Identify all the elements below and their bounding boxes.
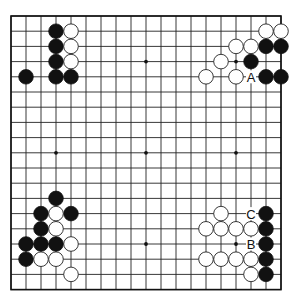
white-stone xyxy=(229,70,244,85)
point-label-b: B xyxy=(247,237,256,252)
white-stone xyxy=(214,252,229,267)
white-stone xyxy=(199,222,214,237)
black-stone xyxy=(34,237,49,252)
black-stone xyxy=(259,237,274,252)
black-stone xyxy=(19,70,34,85)
white-stone xyxy=(259,24,274,39)
white-stone xyxy=(64,54,79,69)
white-stone xyxy=(214,222,229,237)
white-stone xyxy=(64,24,79,39)
black-stone xyxy=(49,191,64,206)
white-stone xyxy=(229,222,244,237)
star-point xyxy=(234,60,238,64)
black-stone xyxy=(34,206,49,221)
black-stone xyxy=(64,70,79,85)
white-stone xyxy=(244,39,259,54)
white-stone xyxy=(64,237,79,252)
white-stone xyxy=(49,222,64,237)
star-point xyxy=(144,60,148,64)
black-stone xyxy=(244,54,259,69)
star-point xyxy=(144,151,148,155)
star-point xyxy=(54,151,58,155)
white-stone xyxy=(49,206,64,221)
black-stone xyxy=(49,54,64,69)
black-stone xyxy=(274,39,289,54)
star-point xyxy=(234,242,238,246)
black-stone xyxy=(49,39,64,54)
white-stone xyxy=(229,39,244,54)
star-point xyxy=(234,151,238,155)
black-stone xyxy=(259,39,274,54)
black-stone xyxy=(49,24,64,39)
star-point xyxy=(144,242,148,246)
white-stone xyxy=(34,252,49,267)
point-label-a: A xyxy=(247,70,256,85)
black-stone xyxy=(259,267,274,282)
white-stone xyxy=(229,252,244,267)
white-stone xyxy=(64,267,79,282)
white-stone xyxy=(199,252,214,267)
black-stone xyxy=(259,206,274,221)
black-stone xyxy=(274,70,289,85)
black-stone xyxy=(19,252,34,267)
black-stone xyxy=(259,70,274,85)
white-stone xyxy=(244,267,259,282)
black-stone xyxy=(259,222,274,237)
white-stone xyxy=(214,206,229,221)
white-stone xyxy=(244,222,259,237)
black-stone xyxy=(49,237,64,252)
white-stone xyxy=(199,70,214,85)
black-stone xyxy=(19,237,34,252)
white-stone xyxy=(244,252,259,267)
white-stone xyxy=(214,54,229,69)
go-board: ABC xyxy=(0,0,300,302)
white-stone xyxy=(64,39,79,54)
black-stone xyxy=(64,206,79,221)
black-stone xyxy=(34,222,49,237)
black-stone xyxy=(49,70,64,85)
white-stone xyxy=(49,252,64,267)
black-stone xyxy=(259,252,274,267)
point-label-c: C xyxy=(246,207,255,222)
white-stone xyxy=(274,24,289,39)
